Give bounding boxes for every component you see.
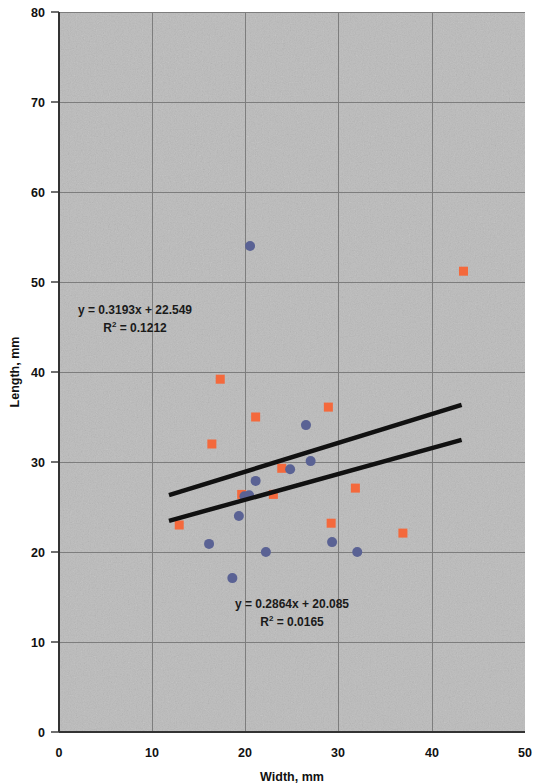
x-tick-label: 50 — [518, 746, 532, 760]
upper-r2-prefix: R — [103, 321, 112, 335]
x-tick-label: 0 — [56, 746, 63, 760]
lower-r2-value: = 0.0165 — [273, 615, 324, 629]
x-tick-label: 40 — [425, 746, 439, 760]
data-point-circle — [301, 420, 311, 430]
data-point-circle — [234, 511, 244, 521]
x-axis-tick-labels: 0 10 20 30 40 50 — [56, 746, 532, 760]
data-point-square — [207, 440, 216, 449]
y-axis-tick-labels: 80 70 60 50 40 30 20 10 0 — [31, 6, 45, 740]
data-point-circle — [204, 539, 214, 549]
data-point-square — [327, 519, 336, 528]
data-point-square — [398, 529, 407, 538]
data-point-circle — [352, 547, 362, 557]
upper-r2-value: = 0.1212 — [116, 321, 167, 335]
y-tick-label: 20 — [31, 546, 45, 560]
data-point-circle — [251, 476, 261, 486]
scatter-chart: 80 70 60 50 40 30 20 10 0 0 10 20 30 40 … — [0, 0, 535, 784]
data-point-circle — [227, 573, 237, 583]
data-point-square — [251, 413, 260, 422]
lower-r2-prefix: R — [260, 615, 269, 629]
y-tick-label: 50 — [31, 276, 45, 290]
y-tick-label: 40 — [31, 366, 45, 380]
data-point-square — [277, 464, 286, 473]
y-tick-label: 70 — [31, 96, 45, 110]
x-tick-label: 20 — [238, 746, 252, 760]
y-axis-ticks — [51, 12, 59, 732]
data-point-square — [324, 403, 333, 412]
y-tick-label: 80 — [31, 6, 45, 20]
data-point-circle — [327, 537, 337, 547]
data-point-square — [459, 267, 468, 276]
data-point-square — [351, 484, 360, 493]
y-tick-label: 30 — [31, 456, 45, 470]
data-point-circle — [261, 547, 271, 557]
lower-equation-line1: y = 0.2864x + 20.085 — [235, 597, 349, 611]
upper-equation-line1: y = 0.3193x + 22.549 — [78, 303, 192, 317]
data-point-circle — [285, 464, 295, 474]
data-point-circle — [245, 241, 255, 251]
data-point-circle — [306, 456, 316, 466]
x-axis-title: Width, mm — [260, 770, 324, 784]
x-tick-label: 30 — [331, 746, 345, 760]
y-tick-label: 0 — [38, 726, 45, 740]
chart-canvas: 80 70 60 50 40 30 20 10 0 0 10 20 30 40 … — [0, 0, 535, 784]
data-point-square — [216, 375, 225, 384]
y-axis-title: Length, mm — [8, 337, 22, 408]
data-point-square — [175, 521, 184, 530]
x-tick-label: 10 — [145, 746, 159, 760]
y-tick-label: 60 — [31, 186, 45, 200]
y-tick-label: 10 — [31, 636, 45, 650]
